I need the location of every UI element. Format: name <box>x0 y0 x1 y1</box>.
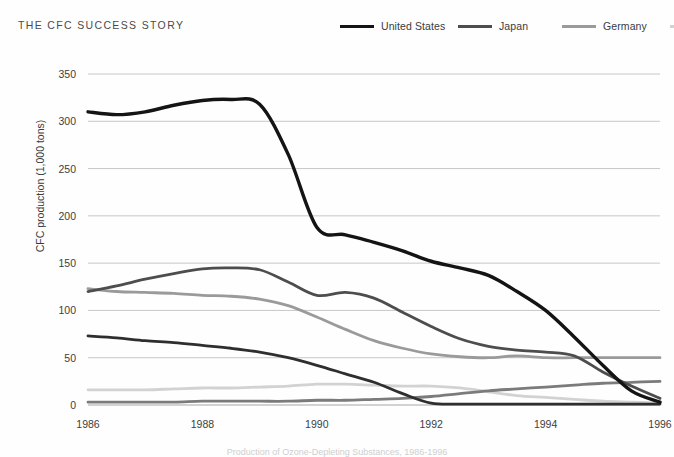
data-series <box>88 99 660 404</box>
x-axis-tick-label: 1988 <box>191 418 215 430</box>
x-axis-tick-label: 1990 <box>305 418 329 430</box>
y-axis-label: CFC production (1,000 tons) <box>34 86 46 286</box>
y-axis-tick-label: 50 <box>64 352 76 364</box>
x-axis-tick-label: 1994 <box>534 418 558 430</box>
line-chart-svg: 050100150200250300350 198619881990199219… <box>0 0 674 457</box>
y-axis-tick-label: 200 <box>58 210 76 222</box>
y-axis-tick-label: 350 <box>58 68 76 80</box>
y-axis-tick-label: 300 <box>58 115 76 127</box>
chart-page: THE CFC SUCCESS STORY United States Japa… <box>0 0 674 457</box>
figure-caption: Production of Ozone-Depleting Substances… <box>0 447 674 457</box>
series-line-china <box>88 336 660 404</box>
y-axis-tick-label: 0 <box>70 399 76 411</box>
plot-area: 050100150200250300350 198619881990199219… <box>0 0 674 457</box>
y-axis-tick-label: 100 <box>58 304 76 316</box>
x-axis-tick-label: 1992 <box>420 418 444 430</box>
y-axis-ticks: 050100150200250300350 <box>58 68 76 411</box>
y-axis-tick-label: 250 <box>58 163 76 175</box>
x-axis-tick-label: 1996 <box>648 418 672 430</box>
x-axis-ticks: 198619881990199219941996 <box>76 418 672 430</box>
y-axis-tick-label: 150 <box>58 257 76 269</box>
series-line-japan <box>88 268 660 399</box>
x-axis-tick-label: 1986 <box>76 418 100 430</box>
